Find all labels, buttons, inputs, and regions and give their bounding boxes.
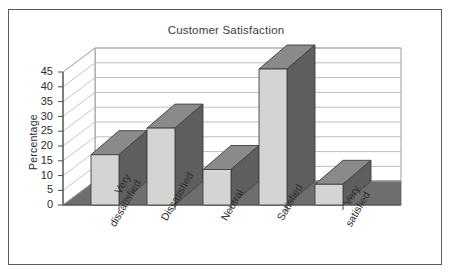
y-tick-0: 0 [33, 199, 53, 210]
y-tick-35: 35 [33, 96, 53, 107]
y-tick-45: 45 [33, 66, 53, 77]
y-axis-ticks [58, 72, 63, 205]
y-tick-10: 10 [33, 170, 53, 181]
bar-satisfied[interactable] [259, 45, 315, 205]
y-axis-title: Percentage [27, 114, 39, 170]
plot-left-wall [63, 48, 95, 205]
y-tick-40: 40 [33, 81, 53, 92]
chart-plot-area [9, 10, 443, 266]
y-tick-5: 5 [33, 184, 53, 195]
chart-frame: Customer Satisfaction [8, 9, 442, 265]
